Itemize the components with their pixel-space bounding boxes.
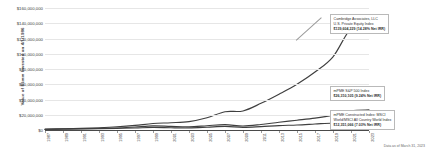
y-axis-tick-label: $20,000,000	[19, 112, 43, 117]
annotation-sp500: mPME S&P 500 Index $26,310,105 (9.24% Ne…	[330, 86, 385, 101]
x-axis-tick-label: 2015	[298, 133, 303, 142]
footnote: Data as of March 31, 2023	[384, 144, 425, 148]
series-line	[45, 110, 369, 129]
grid-line	[45, 23, 369, 24]
x-axis-tick-label: 1989	[64, 133, 69, 142]
x-axis: 1987198919911993199519971999200120032005…	[45, 131, 369, 151]
grid-line	[45, 69, 369, 70]
x-axis-tick-label: 1987	[46, 133, 51, 142]
x-axis-tick-label: 2007	[226, 133, 231, 142]
x-axis-tick-label: 2009	[244, 133, 249, 142]
x-axis-tick-label: 1997	[136, 133, 141, 142]
x-axis-tick-label: 2017	[316, 133, 321, 142]
x-axis-tick-label: 1993	[100, 133, 105, 142]
chart-container: Value of $1mm Invested on 4/1/1986 $160,…	[0, 0, 431, 152]
y-axis-tick-label: $60,000,000	[19, 82, 43, 87]
x-axis-tick-label: 2001	[172, 133, 177, 142]
x-axis-tick-label: 2005	[208, 133, 213, 142]
y-axis-tick-label: $120,000,000	[17, 36, 43, 41]
annotation-value: $12,351,066 (7.03% Net IRR)	[334, 123, 392, 128]
grid-line	[45, 54, 369, 55]
x-axis-tick-label: 2003	[190, 133, 195, 142]
annotation-value: $26,310,105 (9.24% Net IRR)	[334, 94, 382, 99]
grid-line	[45, 84, 369, 85]
y-axis-tick-label: $0	[38, 128, 43, 133]
y-axis-tick-label: $140,000,000	[17, 21, 43, 26]
grid-line	[45, 8, 369, 9]
y-axis-tick-label: $100,000,000	[17, 51, 43, 56]
x-axis-tick-label: 2021	[352, 133, 357, 142]
y-axis-tick-label: $80,000,000	[19, 67, 43, 72]
annotation-private-equity: Cambridge Associates, LLC U.S. Private E…	[330, 14, 389, 34]
x-axis-tick-label: 2019	[334, 133, 339, 142]
grid-line	[45, 100, 369, 101]
x-axis-tick-label: 2023	[370, 133, 375, 142]
grid-line	[45, 39, 369, 40]
x-axis-tick-label: 1999	[154, 133, 159, 142]
annotation-msci-world: mPME Constructed Index: MSCI World/MSCI …	[330, 110, 395, 130]
annotation-line: mPME Constructed Index: MSCI	[334, 113, 392, 118]
annotation-line: Cambridge Associates, LLC	[334, 17, 386, 22]
x-axis-tick-label: 2011	[262, 133, 267, 141]
x-axis-tick-label: 1991	[82, 133, 87, 142]
y-axis-tick-label: $160,000,000	[17, 6, 43, 11]
plot-area: $160,000,000$140,000,000$120,000,000$100…	[45, 8, 369, 130]
grid-line	[45, 115, 369, 116]
x-axis-tick-label: 1995	[118, 133, 123, 142]
x-axis-tick-label: 2013	[280, 133, 285, 142]
y-axis-tick-label: $40,000,000	[19, 97, 43, 102]
annotation-value: $139,604,229 (14.28% Net IRR)	[334, 27, 386, 32]
